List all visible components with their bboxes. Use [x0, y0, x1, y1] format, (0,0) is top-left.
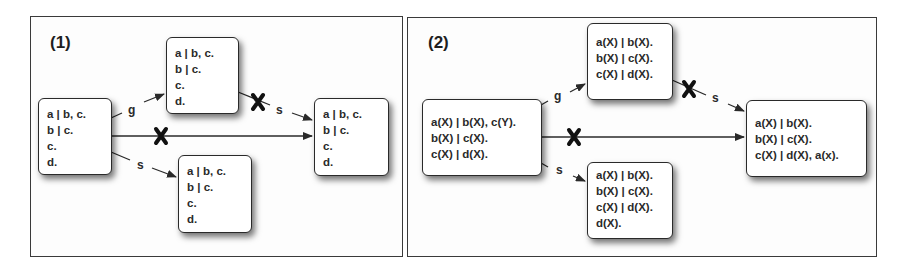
clause: d.: [47, 154, 103, 170]
clause: b | c.: [323, 122, 380, 138]
edge-label-g: g: [128, 103, 135, 117]
clause: a | b, c.: [187, 163, 243, 179]
clause: c(X) | d(X).: [431, 146, 533, 162]
node-source: a | b, c. b | c. c. d.: [38, 98, 112, 175]
clause: a(X) | b(X).: [755, 115, 858, 131]
node-target: a | b, c. b | c. c. d.: [314, 98, 389, 176]
clause: b | c.: [187, 179, 243, 195]
node-top: a | b, c. b | c. c. d.: [166, 37, 239, 114]
clause: b(X) | c(X).: [755, 131, 858, 147]
edge-label-s: s: [712, 91, 719, 105]
node-top: a(X) | b(X). b(X) | c(X). c(X) | d(X).: [587, 23, 673, 100]
clause: b | c.: [47, 122, 103, 138]
clause: d.: [175, 93, 230, 109]
clause: c(X) | d(X), a(x).: [755, 147, 858, 163]
clause: b(X) | c(X).: [596, 183, 664, 199]
clause: c(X) | d(X).: [596, 66, 664, 82]
edge-label-s: s: [276, 103, 283, 117]
clause: a | b, c.: [175, 45, 230, 61]
node-target: a(X) | b(X). b(X) | c(X). c(X) | d(X), a…: [746, 100, 867, 177]
node-bottom: a | b, c. b | c. c. d.: [178, 155, 252, 233]
node-bottom: a(X) | b(X). b(X) | c(X). c(X) | d(X). d…: [587, 162, 673, 239]
clause: b(X) | c(X).: [596, 50, 664, 66]
clause: c.: [47, 138, 103, 154]
clause: c.: [187, 195, 243, 211]
clause: b(X) | c(X).: [431, 130, 533, 146]
clause: a(X) | b(X).: [596, 34, 664, 50]
clause: b | c.: [175, 61, 230, 77]
clause: a | b, c.: [47, 106, 103, 122]
edge-label-s: s: [137, 158, 144, 172]
edge-label-g: g: [554, 89, 561, 103]
clause: a | b, c.: [323, 106, 380, 122]
edge-label-s: s: [556, 163, 563, 177]
clause: c.: [175, 77, 230, 93]
clause: c.: [323, 138, 380, 154]
clause: c(X) | d(X).: [596, 199, 664, 215]
clause: d.: [323, 154, 380, 170]
clause: a(X) | b(X), c(Y).: [431, 114, 533, 130]
clause: d(X).: [596, 215, 664, 231]
node-source: a(X) | b(X), c(Y). b(X) | c(X). c(X) | d…: [422, 99, 542, 176]
clause: a(X) | b(X).: [596, 167, 664, 183]
clause: d.: [187, 211, 243, 227]
